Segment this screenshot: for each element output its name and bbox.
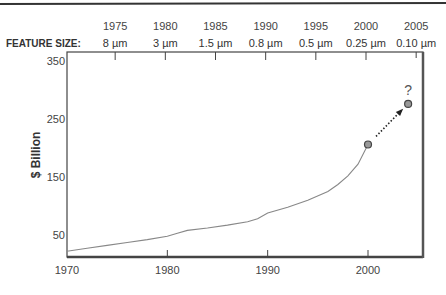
top-year-label: 2005: [404, 20, 428, 32]
data-point: [405, 100, 412, 107]
data-point: [365, 141, 372, 148]
x-tick-label: 1990: [255, 264, 279, 276]
y-tick-label: 150: [47, 171, 65, 183]
series-line: [67, 145, 368, 252]
feature-size-label: 0.25 µm: [346, 37, 386, 49]
feature-size-label: 0.5 µm: [299, 37, 333, 49]
x-tick-label: 2000: [356, 264, 380, 276]
y-tick-label: 250: [47, 113, 65, 125]
top-year-label: 1975: [103, 20, 127, 32]
series-layer: [67, 100, 412, 251]
question-mark-label: ?: [404, 82, 412, 98]
y-axis-label: $ Billion: [29, 132, 43, 179]
x-tick-label: 1980: [155, 264, 179, 276]
y-tick-label: 350: [47, 55, 65, 67]
feature-size-label: 8 µm: [103, 37, 128, 49]
feature-size-label: 0.8 µm: [249, 37, 283, 49]
top-year-label: 1995: [304, 20, 328, 32]
top-axis: 19758 µm19803 µm19851.5 µm19900.8 µm1995…: [103, 20, 436, 60]
y-tick-label: 50: [53, 229, 65, 241]
plot-frame: [67, 52, 423, 257]
top-year-label: 1990: [253, 20, 277, 32]
top-year-label: 2000: [354, 20, 378, 32]
chart: 19758 µm19803 µm19851.5 µm19900.8 µm1995…: [0, 0, 446, 295]
feature-size-label: 1.5 µm: [199, 37, 233, 49]
arrow-head-icon: [396, 109, 403, 116]
x-axis: 1970198019902000: [55, 250, 380, 276]
top-year-label: 1985: [203, 20, 227, 32]
feature-size-title: FEATURE SIZE:: [6, 38, 81, 49]
top-year-label: 1980: [153, 20, 177, 32]
x-tick-label: 1970: [55, 264, 79, 276]
feature-size-label: 0.10 µm: [396, 37, 436, 49]
annotation-layer: ?: [376, 82, 412, 136]
feature-size-label: 3 µm: [153, 37, 178, 49]
y-axis: 50150250350: [47, 55, 65, 241]
top-rule: [0, 3, 446, 4]
